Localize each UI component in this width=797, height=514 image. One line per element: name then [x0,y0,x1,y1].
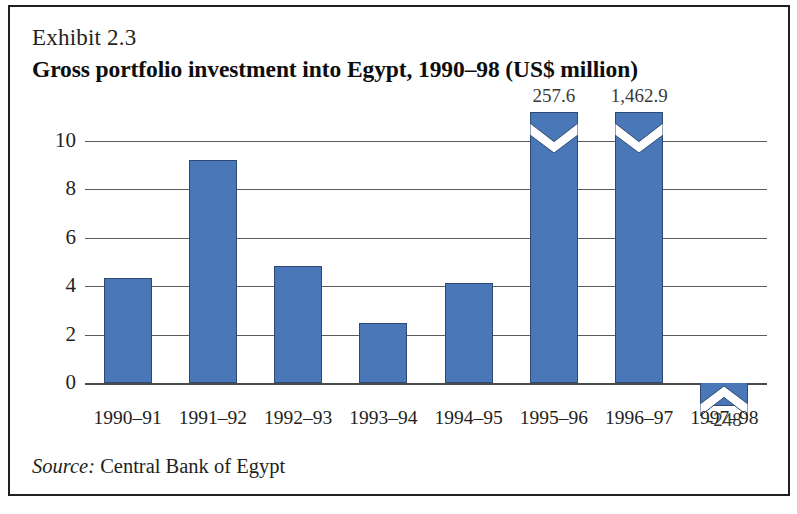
bar [104,278,152,383]
bar-value-label: 1,462.9 [579,85,699,107]
gridline-8 [85,189,767,190]
bar [615,112,663,383]
y-axis-tick-label: 2 [28,324,76,345]
bar [274,266,322,383]
source-line: Source: Central Bank of Egypt [32,455,285,478]
bar-chart-plot-area: 02468101990–911991–921992–931993–941994–… [10,7,792,498]
x-axis-tick-label: 1997–98 [669,407,779,429]
y-axis-tick-label: 0 [28,372,76,393]
gridline-10 [85,141,767,142]
gridline-6 [85,238,767,239]
source-prefix: Source: [32,455,95,477]
y-axis-tick-label: 6 [28,227,76,248]
y-axis-tick-label: 4 [28,275,76,296]
axis-baseline [85,383,767,385]
gridline-4 [85,286,767,287]
bar [445,283,493,383]
bar [530,112,578,383]
y-axis-tick-label: 8 [28,178,76,199]
bar [700,383,748,406]
gridline-2 [85,335,767,336]
exhibit-frame: Exhibit 2.3 Gross portfolio investment i… [8,5,790,496]
y-axis-tick-label: 10 [28,130,76,151]
bar [189,160,237,383]
source-text: Central Bank of Egypt [95,455,285,477]
bar [359,323,407,384]
